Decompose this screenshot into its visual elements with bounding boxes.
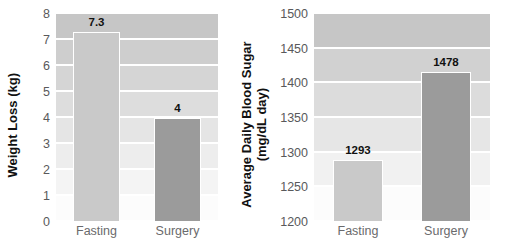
y-tick-label: 1300 <box>280 146 308 160</box>
y-tick-label: 7 <box>43 33 50 47</box>
y-tick-label: 1200 <box>280 215 308 229</box>
y-axis-title-text: Weight Loss (kg) <box>5 73 20 177</box>
y-axis-ticks-weight-loss: 876543210 <box>24 14 54 222</box>
bar-fasting-weight-loss[interactable]: 7.3 <box>73 32 119 222</box>
y-axis-title-line2: (mg/dL day) <box>253 88 268 161</box>
y-tick-label: 3 <box>43 137 50 151</box>
category-label-surgery: Surgery <box>402 224 490 246</box>
y-tick-label: 5 <box>43 85 50 99</box>
chart-panel-weight-loss: Weight Loss (kg) 876543210 7.3 4 Fasti <box>0 0 238 250</box>
x-axis-categories-weight-loss: Fasting Surgery <box>56 224 218 246</box>
bar-value-label: 1293 <box>345 144 371 156</box>
chart-panel-blood-sugar: Average Daily Blood Sugar (mg/dL day) 15… <box>238 0 512 250</box>
bar-value-label: 4 <box>174 102 180 114</box>
y-axis-title-line1: Average Daily Blood Sugar <box>238 42 253 208</box>
category-label-fasting: Fasting <box>56 224 137 246</box>
plot-area-blood-sugar: 1293 1478 <box>314 14 490 222</box>
bar-group-surgery-right: 1478 <box>406 14 487 222</box>
bar-group-fasting-left: 7.3 <box>59 14 134 222</box>
bars-weight-loss: 7.3 4 <box>56 14 218 222</box>
bar-surgery-weight-loss[interactable]: 4 <box>154 118 200 222</box>
bar-group-surgery-left: 4 <box>140 14 215 222</box>
y-axis-title-weight-loss: Weight Loss (kg) <box>0 0 26 250</box>
y-tick-label: 1250 <box>280 180 308 194</box>
y-tick-label: 1400 <box>280 76 308 90</box>
bar-value-label: 1478 <box>433 56 459 68</box>
bar-surgery-blood-sugar[interactable]: 1478 <box>421 72 471 222</box>
x-axis-categories-blood-sugar: Fasting Surgery <box>314 224 490 246</box>
y-tick-label: 1500 <box>280 7 308 21</box>
bar-value-label: 7.3 <box>88 16 104 28</box>
bar-group-fasting-right: 1293 <box>318 14 399 222</box>
y-tick-label: 2 <box>43 163 50 177</box>
y-tick-label: 1350 <box>280 111 308 125</box>
plot-area-weight-loss: 7.3 4 <box>56 14 218 222</box>
y-tick-label: 6 <box>43 59 50 73</box>
bar-fasting-blood-sugar[interactable]: 1293 <box>333 160 383 222</box>
category-label-surgery: Surgery <box>137 224 218 246</box>
y-axis-ticks-blood-sugar: 1500145014001350130012501200 <box>268 14 312 222</box>
y-tick-label: 0 <box>43 215 50 229</box>
y-tick-label: 1 <box>43 189 50 203</box>
y-tick-label: 8 <box>43 7 50 21</box>
bars-blood-sugar: 1293 1478 <box>314 14 490 222</box>
y-tick-label: 4 <box>43 111 50 125</box>
dual-bar-chart-figure: Weight Loss (kg) 876543210 7.3 4 Fasti <box>0 0 512 250</box>
category-label-fasting: Fasting <box>314 224 402 246</box>
y-tick-label: 1450 <box>280 42 308 56</box>
y-axis-title-blood-sugar: Average Daily Blood Sugar (mg/dL day) <box>238 0 270 250</box>
